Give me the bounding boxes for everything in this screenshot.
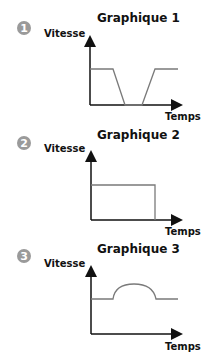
speed-time-graphs: 1 Graphique 1 Vitesse Temps 2 Graphique …	[0, 0, 211, 359]
badge-number: 3	[20, 250, 28, 263]
panel-2: 2 Graphique 2 Vitesse Temps	[17, 128, 201, 237]
x-axis-label: Temps	[165, 341, 201, 352]
graph-title: Graphique 3	[97, 242, 180, 256]
y-axis-label: Vitesse	[44, 143, 85, 154]
x-axis-label: Temps	[165, 226, 201, 237]
badge-number: 2	[20, 137, 28, 150]
panel-1: 1 Graphique 1 Vitesse Temps	[17, 11, 201, 122]
speed-curve	[91, 185, 155, 220]
y-axis-label: Vitesse	[44, 258, 85, 269]
y-axis-label: Vitesse	[44, 28, 85, 39]
panel-3: 3 Graphique 3 Vitesse Temps	[17, 242, 201, 352]
graph-title: Graphique 1	[97, 11, 180, 25]
graph-title: Graphique 2	[97, 128, 180, 142]
badge-number: 1	[20, 22, 28, 35]
speed-curve	[91, 284, 178, 299]
speed-curve	[90, 69, 178, 105]
x-axis-label: Temps	[165, 111, 201, 122]
